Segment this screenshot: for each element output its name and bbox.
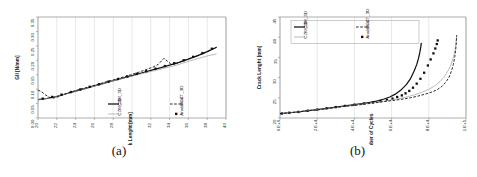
x-axis-title: Number of Cycles: [369, 113, 374, 145]
data-marker: [401, 94, 403, 96]
xtick-label: 1.E+5: [462, 119, 467, 131]
data-marker: [51, 96, 53, 98]
xtick-label: 36: [184, 123, 189, 128]
data-marker: [136, 73, 138, 75]
data-marker: [423, 72, 425, 74]
data-marker: [419, 78, 421, 80]
xtick-label: 22: [53, 123, 58, 128]
data-marker: [404, 92, 406, 94]
legend-label-czm_2d: CZM_2D: [304, 21, 309, 39]
caption-b: (b): [238, 143, 477, 159]
series-line-CZM_3D: [38, 47, 217, 99]
data-marker: [211, 48, 213, 50]
legend-border: [291, 21, 419, 44]
data-marker: [107, 80, 109, 82]
ytick-label: 45: [273, 18, 278, 23]
xtick-label: 0.E+0: [276, 119, 281, 131]
ytick-label: 40: [273, 38, 278, 43]
legend-label-analytical: Analytical: [180, 97, 185, 116]
data-marker: [436, 43, 438, 45]
chart-a-svg: 0.000.050.100.150.200.250.300.3520222426…: [0, 0, 238, 145]
chart-panel-b: 2025303540450.E+02.E+44.E+46.E+48.E+41.E…: [238, 0, 477, 177]
data-marker: [430, 58, 432, 60]
data-marker: [70, 91, 72, 93]
chart-panel-a: 0.000.050.100.150.200.250.300.3520222426…: [0, 0, 238, 177]
xtick-label: 8.E+4: [425, 119, 430, 131]
series-line-CZM_3D: [280, 43, 421, 114]
legend-label-czm_2d: CZM_2D: [118, 98, 123, 116]
xtick-label: 6.E+4: [388, 119, 393, 131]
data-marker: [416, 83, 418, 85]
legend-swatch-analytical: [361, 36, 363, 38]
legend-swatch-analytical: [175, 113, 177, 115]
data-marker: [183, 59, 185, 61]
ytick-label: 0.35: [31, 18, 36, 27]
data-marker: [427, 64, 429, 66]
data-marker: [192, 56, 194, 58]
data-marker: [412, 87, 414, 89]
xtick-label: 20: [34, 123, 39, 128]
xtick-label: 32: [147, 123, 152, 128]
chart-b-plot-area: 2025303540450.E+02.E+44.E+46.E+48.E+41.E…: [238, 0, 477, 145]
data-marker: [98, 83, 100, 85]
data-marker: [42, 98, 44, 100]
ytick-label: 0.15: [31, 76, 36, 85]
data-marker: [432, 52, 434, 54]
ytick-label: 0.20: [31, 61, 36, 70]
data-marker: [396, 96, 398, 98]
data-marker: [408, 90, 410, 92]
data-marker: [164, 65, 166, 67]
data-marker: [437, 39, 439, 41]
xtick-label: 26: [90, 123, 95, 128]
data-marker: [126, 75, 128, 77]
ytick-label: 0.10: [31, 90, 36, 99]
xtick-label: 24: [72, 123, 77, 128]
series-line-VCCT_3D: [38, 47, 217, 98]
xtick-label: 2.E+4: [313, 119, 318, 131]
ytick-label: 30: [273, 79, 278, 84]
data-marker: [173, 62, 175, 64]
y-axis-title: Crack Lenght [mm]: [257, 45, 262, 89]
data-marker: [434, 47, 436, 49]
chart-a-plot-area: 0.000.050.100.150.200.250.300.3520222426…: [0, 0, 238, 145]
data-marker: [89, 86, 91, 88]
data-marker: [60, 93, 62, 95]
series-markers-Analytical: [42, 48, 214, 100]
series-line-CZM_2D: [280, 35, 457, 113]
legend-label-analytical: Analytical: [366, 20, 371, 39]
series-line-VCCT_3D: [280, 35, 457, 113]
ytick-label: 0.05: [31, 105, 36, 114]
x-axis-title: Crack Lenght [mm]: [128, 112, 133, 145]
ytick-label: 25: [273, 99, 278, 104]
legend: CZM_3DVCCT_3DCZM_2DAnalytical: [291, 9, 419, 44]
xtick-label: 28: [109, 123, 114, 128]
chart-b-svg: 2025303540450.E+02.E+44.E+46.E+48.E+41.E…: [238, 0, 477, 145]
legend: CZM_3DVCCT_3DCZM_2DAnalytical: [108, 86, 185, 116]
ytick-label: 35: [273, 58, 278, 63]
data-marker: [79, 88, 81, 90]
xtick-label: 40: [222, 123, 227, 128]
figure-container: 0.000.050.100.150.200.250.300.3520222426…: [0, 0, 477, 177]
caption-a: (a): [0, 143, 238, 159]
data-marker: [201, 52, 203, 54]
ytick-label: 0.30: [31, 32, 36, 41]
xtick-label: 34: [166, 123, 171, 128]
xtick-label: 38: [203, 123, 208, 128]
data-marker: [145, 70, 147, 72]
xtick-label: 4.E+4: [350, 119, 355, 131]
data-marker: [154, 68, 156, 70]
ytick-label: 0.25: [31, 47, 36, 56]
y-axis-title: GII [N/mm]: [15, 55, 20, 80]
data-marker: [117, 78, 119, 80]
